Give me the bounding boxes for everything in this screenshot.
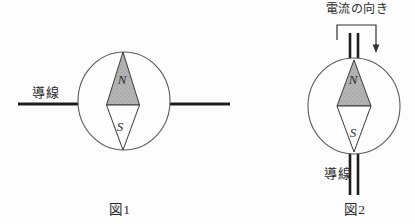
- figure-2: N S 電流の向き 導線 図2: [308, 1, 400, 217]
- fig2-current-direction-arrowhead: [373, 45, 380, 54]
- physics-diagram: N S 導線 図1 N S 電流の向き 導線 図2: [0, 0, 415, 224]
- fig2-caption: 図2: [344, 202, 366, 217]
- fig2-south-pole-label: S: [350, 125, 357, 140]
- diagram-canvas: N S 導線 図1 N S 電流の向き 導線 図2: [0, 0, 415, 224]
- fig1-south-pole-label: S: [117, 119, 124, 134]
- figure-1: N S 導線 図1: [18, 52, 230, 217]
- fig1-north-pole-label: N: [117, 72, 128, 87]
- fig2-current-direction-arrow-line: [337, 25, 376, 46]
- fig2-current-direction-label: 電流の向き: [326, 1, 389, 16]
- fig1-caption: 図1: [109, 202, 131, 217]
- fig2-north-pole-label: N: [348, 72, 359, 87]
- fig1-wire-label: 導線: [32, 85, 59, 100]
- fig2-wire-label: 導線: [324, 166, 351, 181]
